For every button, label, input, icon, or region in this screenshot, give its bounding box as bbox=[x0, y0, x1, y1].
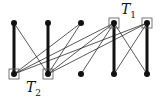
node-b5 bbox=[144, 71, 150, 77]
node-b1 bbox=[11, 71, 17, 77]
label-t2: T2 bbox=[26, 80, 41, 98]
label-t1: T1 bbox=[121, 2, 136, 20]
edge-a1-b2 bbox=[14, 23, 48, 74]
node-a5 bbox=[144, 20, 150, 26]
edge-a5-b1 bbox=[14, 23, 147, 74]
node-a4 bbox=[111, 20, 117, 26]
edge-a5-b2 bbox=[48, 23, 147, 74]
node-a2 bbox=[45, 20, 51, 26]
edge-a4-b1 bbox=[14, 23, 114, 74]
node-b3 bbox=[78, 71, 84, 77]
node-a1 bbox=[11, 20, 17, 26]
node-b2 bbox=[45, 71, 51, 77]
node-a3 bbox=[78, 20, 84, 26]
node-b4 bbox=[111, 71, 117, 77]
